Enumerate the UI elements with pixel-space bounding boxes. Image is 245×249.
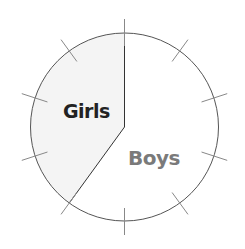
pie-slices <box>31 33 219 221</box>
boys-slice-label: Boys <box>128 148 180 168</box>
pie-chart <box>0 0 245 249</box>
girls-slice-label: Girls <box>63 102 110 121</box>
